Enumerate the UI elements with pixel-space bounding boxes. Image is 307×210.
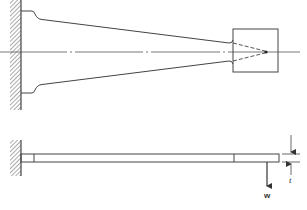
thickness-label: t — [289, 175, 292, 185]
beam-side — [21, 154, 279, 162]
wall-hatch-top — [10, 0, 21, 110]
apex-point — [264, 50, 267, 53]
load-label: w — [263, 191, 271, 200]
cantilever-diagram: w t — [0, 0, 307, 210]
beam-lower-edge — [21, 61, 233, 93]
plan-view — [0, 0, 300, 110]
dashed-taper-upper — [233, 43, 265, 51]
wall-hatch-side — [10, 140, 21, 176]
thickness-dimension — [282, 135, 300, 175]
end-block — [233, 29, 278, 72]
side-view: w t — [10, 135, 300, 200]
beam-upper-edge — [21, 11, 233, 43]
dashed-taper-lower — [233, 53, 265, 61]
